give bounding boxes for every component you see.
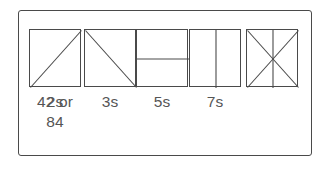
label-7s: 7s: [189, 92, 241, 112]
square-outline: [29, 29, 81, 87]
diagram-cell-5s: [136, 29, 188, 87]
square-outline: [246, 29, 298, 87]
square-outline: [136, 29, 188, 87]
label-42-or-84: 42 or 84: [24, 92, 86, 132]
label-3s: 3s: [84, 92, 136, 112]
figure-root: 2s 3s 5s 7s 42 or 84: [0, 0, 329, 170]
diagonal-down-icon: [85, 30, 137, 88]
squares-row: [29, 29, 301, 87]
horizontal-split-icon: [137, 30, 189, 88]
labels-row: 2s 3s 5s 7s 42 or 84: [29, 92, 301, 144]
square-outline: [84, 29, 136, 87]
label-5s: 5s: [136, 92, 188, 112]
diagram-cell-2s: [29, 29, 81, 87]
square-outline: [189, 29, 241, 87]
x-plus-vertical-icon: [247, 30, 299, 88]
diagram-cell-42-or-84: [246, 29, 298, 87]
diagonal-up-icon: [30, 30, 82, 88]
diagram-cell-7s: [189, 29, 241, 87]
diagram-cell-3s: [84, 29, 136, 87]
vertical-split-icon: [190, 30, 242, 88]
